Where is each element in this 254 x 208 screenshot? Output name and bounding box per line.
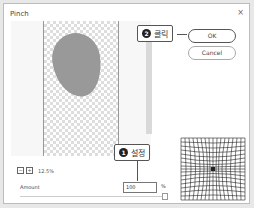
callout-text: 설정	[131, 147, 145, 158]
zoom-in-button[interactable]: +	[26, 167, 33, 174]
zoom-out-button[interactable]: −	[17, 167, 24, 174]
preview-shape	[49, 30, 105, 100]
callout-click: 2 클릭	[137, 25, 173, 42]
preview-scrollbar[interactable]	[146, 34, 152, 134]
step-number-badge: 2	[142, 29, 151, 38]
cancel-button[interactable]: Cancel	[188, 46, 236, 60]
dialog-title: Pinch	[10, 10, 29, 18]
close-icon[interactable]: ×	[237, 9, 244, 17]
amount-label: Amount	[20, 184, 40, 190]
amount-input[interactable]: 100	[123, 182, 157, 193]
amount-slider-thumb[interactable]	[162, 193, 168, 200]
amount-slider-track[interactable]	[20, 196, 166, 197]
callout-leader-line	[177, 34, 187, 35]
preview-area[interactable]	[11, 21, 151, 156]
pinch-grid-preview	[177, 134, 249, 204]
callout-set: 1 설정	[114, 144, 150, 161]
step-number-badge: 1	[119, 148, 128, 157]
ok-button[interactable]: OK	[188, 29, 236, 43]
zoom-level: 12.5%	[38, 168, 54, 174]
pinch-dialog: Pinch × OK Cancel − + 12.5% Amount 100 %	[3, 3, 250, 204]
callout-text: 클릭	[154, 28, 168, 39]
callout-leader-line	[137, 160, 138, 181]
transparent-canvas	[43, 21, 119, 156]
amount-unit: %	[161, 183, 166, 189]
zoom-controls: − + 12.5%	[17, 167, 54, 174]
